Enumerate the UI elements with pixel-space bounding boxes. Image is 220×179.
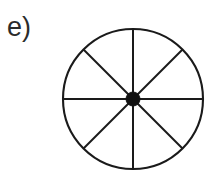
figure-panel: e) (0, 0, 220, 179)
wheel-center-hub-icon (126, 92, 140, 106)
pie-wheel-diagram (0, 0, 220, 179)
